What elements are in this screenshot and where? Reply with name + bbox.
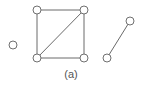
node-square-top-right	[80, 6, 88, 14]
node-square-bottom-left	[33, 54, 41, 62]
node-isolated	[9, 41, 17, 49]
node-pair-bottom	[103, 54, 111, 62]
figure-caption: (a)	[0, 68, 142, 80]
node-square-top-left	[33, 6, 41, 14]
edges	[37, 10, 130, 58]
node-pair-top	[126, 17, 134, 25]
nodes	[9, 6, 134, 62]
edge-pair-bottom-pair-top	[107, 21, 130, 58]
edge-square-bottom-left-square-top-right	[37, 10, 84, 58]
node-square-bottom-right	[80, 54, 88, 62]
